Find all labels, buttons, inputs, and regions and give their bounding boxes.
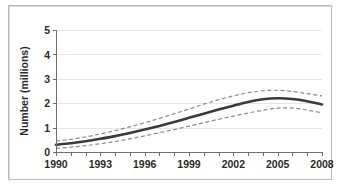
x-tick-label-1996: 1996 bbox=[133, 158, 157, 170]
y-tick-label-2: 2 bbox=[44, 97, 50, 109]
x-tick-label-1993: 1993 bbox=[89, 158, 113, 170]
y-tick-label-4: 4 bbox=[44, 49, 50, 61]
y-tick-label-3: 3 bbox=[44, 73, 50, 85]
x-tick-label-2002: 2002 bbox=[222, 158, 246, 170]
tick-group bbox=[53, 31, 323, 157]
x-tick-label-1990: 1990 bbox=[44, 158, 68, 170]
x-tick-label-2008: 2008 bbox=[310, 158, 334, 170]
y-tick-label-0: 0 bbox=[44, 146, 50, 158]
y-axis-title: Number (millions) bbox=[18, 46, 30, 135]
figure-root: 0123451990199319961999200220052008Number… bbox=[0, 0, 341, 193]
x-tick-label-2005: 2005 bbox=[266, 158, 290, 170]
series-group bbox=[56, 90, 322, 148]
y-tick-label-1: 1 bbox=[44, 122, 50, 134]
line-chart: 0123451990199319961999200220052008Number… bbox=[0, 0, 341, 193]
series-line-estimate bbox=[56, 98, 322, 144]
y-tick-label-5: 5 bbox=[44, 24, 50, 36]
axis-group bbox=[56, 30, 322, 153]
x-tick-label-1999: 1999 bbox=[177, 158, 201, 170]
gridline-group bbox=[56, 31, 322, 129]
